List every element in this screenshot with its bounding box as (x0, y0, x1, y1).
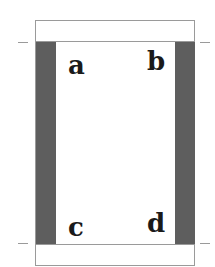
tick-mark-top-left (18, 42, 28, 43)
label-c: c (68, 214, 84, 240)
tick-mark-bottom-left (18, 243, 28, 244)
label-a: a (68, 52, 85, 78)
page-outline (35, 20, 195, 266)
tick-mark-top-right (200, 42, 210, 43)
label-d: d (147, 210, 165, 236)
right-dark-strip (175, 42, 195, 244)
top-margin-band (35, 20, 195, 42)
bottom-margin-band (35, 244, 195, 266)
left-dark-strip (36, 42, 56, 244)
label-b: b (147, 48, 165, 74)
tick-mark-bottom-right (200, 243, 210, 244)
